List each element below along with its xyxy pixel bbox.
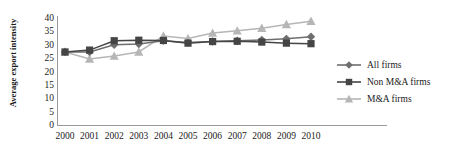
data-point-marker — [345, 61, 353, 69]
data-point-marker — [346, 78, 352, 84]
data-point-marker — [134, 47, 143, 55]
data-point-marker — [234, 38, 241, 45]
y-tick-label: 15 — [36, 80, 54, 90]
legend-item-all-firms[interactable]: All firms — [336, 56, 461, 73]
y-tick-label: 5 — [36, 107, 54, 117]
data-point-marker — [135, 37, 142, 44]
data-point-marker — [306, 17, 315, 25]
data-point-marker — [111, 37, 118, 44]
y-tick-label: 30 — [36, 40, 54, 50]
legend-marker-diamond-icon — [336, 59, 362, 71]
legend-item-non-m-a-firms[interactable]: Non M&A firms — [336, 73, 461, 90]
x-tick-label: 2010 — [296, 130, 326, 142]
data-point-marker — [307, 33, 315, 41]
legend-label: M&A firms — [362, 94, 412, 104]
data-point-marker — [283, 40, 290, 47]
y-tick-label: 25 — [36, 53, 54, 63]
legend-marker-triangle-icon — [336, 93, 362, 105]
y-axis-title: Average export intensity — [8, 4, 18, 122]
y-tick-label: 10 — [36, 93, 54, 103]
y-tick-label: 20 — [36, 67, 54, 77]
x-axis-line — [57, 125, 387, 126]
legend-label: All firms — [362, 60, 402, 70]
y-tick-label: 0 — [36, 120, 54, 130]
legend-item-m-a-firms[interactable]: M&A firms — [336, 90, 461, 107]
legend-label: Non M&A firms — [362, 77, 430, 87]
legend-marker-square-icon — [336, 76, 362, 88]
x-axis-tick-labels: 2000200120022003200420052006200720082009… — [57, 130, 321, 146]
data-point-marker — [184, 40, 191, 47]
y-tick-label: 35 — [36, 26, 54, 36]
plot-area — [57, 18, 321, 125]
plot-series-svg — [57, 18, 321, 125]
y-tick-label: 40 — [36, 13, 54, 23]
data-point-marker — [86, 47, 93, 54]
data-point-marker — [258, 38, 265, 45]
chart-legend: All firmsNon M&A firmsM&A firms — [336, 56, 461, 108]
data-point-marker — [160, 37, 167, 44]
data-point-marker — [307, 40, 314, 47]
data-point-marker — [61, 48, 68, 55]
data-point-marker — [209, 38, 216, 45]
export-intensity-line-chart: Average export intensity 403530252015105… — [0, 0, 461, 156]
